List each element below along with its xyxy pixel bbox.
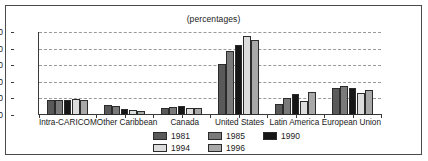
bar [292,94,300,115]
y-axis-tick-label: 0 [0,110,3,120]
legend-item: 1996 [208,143,263,153]
legend-swatch [208,132,222,140]
y-axis-tick-mark [11,49,14,50]
y-axis-tick-label: 30 [0,60,3,70]
bar-group [267,32,324,115]
x-axis-category-labels: Intra-CARICOMOther CaribbeanCanadaUnited… [39,118,381,130]
legend-row: 19941996 [153,143,318,153]
bar [283,98,291,115]
bar [308,92,316,115]
bar [112,106,120,115]
bar [55,100,63,115]
y-axis-tick-labels: 01020304050 [0,32,3,115]
y-axis-tick-label: 10 [0,93,3,103]
bar-group [39,32,96,115]
bar [332,88,340,115]
y-axis-tick-mark [11,32,14,33]
y-axis-tick-mark [11,98,14,99]
legend-row: 198119851990 [153,131,318,141]
y-axis-tick-mark [11,65,14,66]
bar [104,105,112,115]
bar-group [324,32,381,115]
legend-label: 1981 [171,131,190,141]
bar [137,111,145,115]
x-axis-tick-mark [381,114,382,118]
bar-group [210,32,267,115]
bar [80,100,88,115]
legend-label: 1996 [226,143,245,153]
x-axis-category-label: Other Caribbean [97,118,158,130]
bar [129,110,137,115]
chart-card: (percentages) 01020304050 Intra-CARICOMO… [5,5,422,155]
bar [235,45,243,115]
chart-legend: 19811985199019941996 [153,131,318,155]
bar [194,108,202,115]
x-axis-category-label: United States [212,118,267,130]
bar-groups [39,32,381,115]
legend-swatch [153,144,167,152]
plot-area [39,32,381,115]
bar [169,107,177,115]
legend-item: 1994 [153,143,208,153]
legend-item: 1990 [263,131,318,141]
bar [161,108,169,115]
bar [72,99,80,115]
bar-group [153,32,210,115]
legend-swatch [153,132,167,140]
bar [226,51,234,115]
bar-group [96,32,153,115]
legend-item: 1985 [208,131,263,141]
x-axis-category-label: Latin America [267,118,322,130]
bar [300,101,308,115]
x-axis-category-label: Canada [157,118,212,130]
bar [340,86,348,115]
bar [243,36,251,115]
legend-swatch [208,144,222,152]
chart-title: (percentages) [6,14,421,24]
y-axis-tick-label: 20 [0,77,3,87]
x-axis-category-label: European Union [322,118,381,130]
bar [365,90,373,115]
y-axis-tick-label: 40 [0,44,3,54]
legend-label: 1994 [171,143,190,153]
bar [275,104,283,115]
bar [47,100,55,115]
legend-swatch [263,132,277,140]
legend-label: 1985 [226,131,245,141]
bar [218,64,226,115]
bar [186,108,194,115]
y-axis-tick-label: 50 [0,27,3,37]
bar [349,88,357,115]
legend-item: 1981 [153,131,208,141]
y-axis-tick-mark [11,115,14,116]
legend-label: 1990 [281,131,300,141]
x-axis-category-label: Intra-CARICOM [39,118,97,130]
bar [64,100,72,115]
bar [357,93,365,115]
bar [251,40,259,115]
y-axis-tick-mark [11,82,14,83]
